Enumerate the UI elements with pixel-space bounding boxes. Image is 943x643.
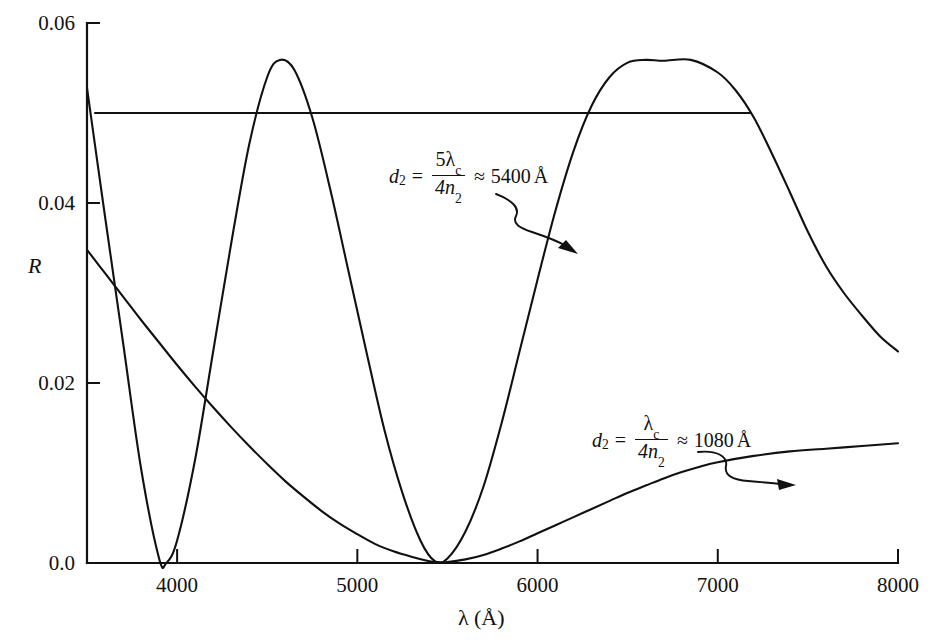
annotation-1-denominator-sub: 2 (658, 455, 665, 470)
annotation-1-numerator-sub: c (653, 427, 659, 442)
annotation-0-unit: Å (534, 166, 548, 186)
x-tick-label-5000: 5000 (336, 573, 378, 597)
y-axis-title: R (27, 253, 42, 278)
x-axis-title-lambda: λ (458, 605, 469, 630)
x-tick-label-7000: 7000 (697, 573, 739, 597)
annotation-0-denominator-sub: 2 (455, 191, 462, 206)
annotation-1-denominator: 4n2 (635, 440, 668, 466)
curve-1080-angstrom (87, 250, 898, 563)
annotation-0-fraction: 5λc 4n2 (432, 149, 465, 202)
annotation-0-lhs: d (389, 166, 399, 186)
annotation-1-value: 1080 (694, 430, 734, 450)
annotation-0-numerator-main: 5λ (436, 148, 456, 170)
annotation-1-numerator: λc (641, 413, 663, 439)
x-tick-label-6000: 6000 (517, 573, 559, 597)
y-tick-label-0.0: 0.0 (49, 551, 75, 575)
annotation-arrow-1080-head (777, 479, 796, 490)
annotation-0-lhs-sub: 2 (399, 174, 406, 188)
annotation-0-denominator: 4n2 (432, 176, 465, 202)
annotation-0-numerator-sub: c (455, 163, 461, 178)
y-axis-tick-labels: 0.00.020.040.06 (38, 11, 75, 575)
annotation-1-lhs-sub: 2 (602, 438, 609, 452)
annotation-0-value: 5400 (491, 166, 531, 186)
annotation-arrow-5400-head (558, 240, 578, 254)
figure-reflectance-vs-wavelength: 0.00.020.040.06 40005000600070008000 R λ… (0, 0, 943, 643)
x-axis-tick-labels: 40005000600070008000 (156, 573, 919, 597)
annotation-0-approx: ≈ (474, 166, 485, 186)
annotation-1-approx: ≈ (677, 430, 688, 450)
curve-5400-angstrom (87, 59, 898, 568)
x-axis-ticks (177, 549, 898, 563)
annotation-1-equals: = (615, 430, 626, 450)
annotation-0-denominator-main: 4n (435, 176, 455, 198)
x-tick-label-8000: 8000 (877, 573, 919, 597)
reflectance-plot: 0.00.020.040.06 40005000600070008000 R λ… (0, 0, 943, 643)
x-axis-title-unit: (Å) (474, 605, 505, 630)
x-tick-label-4000: 4000 (156, 573, 198, 597)
annotation-arrow-5400 (496, 194, 578, 254)
annotation-1-denominator-main: 4n (638, 440, 658, 462)
x-axis-title: λ (Å) (458, 605, 505, 630)
annotation-1-lhs: d (592, 430, 602, 450)
annotation-1-fraction: λc 4n2 (635, 413, 668, 466)
annotation-1-unit: Å (737, 430, 751, 450)
y-tick-label-0.04: 0.04 (38, 191, 75, 215)
annotation-0-equals: = (412, 166, 423, 186)
annotation-0-numerator: 5λc (433, 149, 465, 175)
annotation-1-numerator-main: λ (644, 412, 654, 434)
y-tick-label-0.02: 0.02 (38, 371, 75, 395)
annotation-equation-1080: d2 = λc 4n2 ≈ 1080 Å (592, 414, 751, 467)
annotation-equation-5400: d2 = 5λc 4n2 ≈ 5400 Å (389, 150, 548, 203)
y-tick-label-0.06: 0.06 (38, 11, 75, 35)
